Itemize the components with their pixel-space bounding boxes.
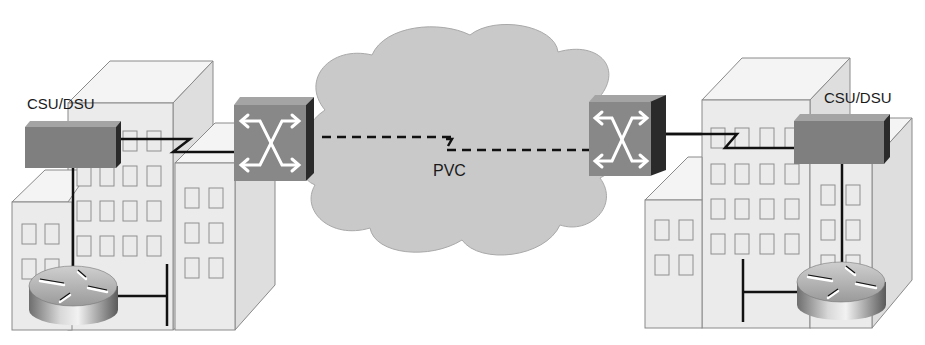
- left-csu-dsu-label: CSU/DSU: [27, 95, 95, 112]
- right-router[interactable]: [797, 262, 886, 320]
- left-csu-dsu-device[interactable]: [25, 121, 121, 168]
- pvc-label: PVC: [433, 162, 466, 180]
- left-wan-switch[interactable]: [234, 97, 314, 181]
- right-csu-dsu-device[interactable]: [794, 114, 890, 164]
- frame-relay-cloud: [299, 24, 620, 255]
- left-router[interactable]: [29, 266, 118, 325]
- right-csu-dsu-label: CSU/DSU: [824, 89, 892, 106]
- right-wan-switch[interactable]: [589, 95, 666, 176]
- right-low-block: [645, 157, 702, 328]
